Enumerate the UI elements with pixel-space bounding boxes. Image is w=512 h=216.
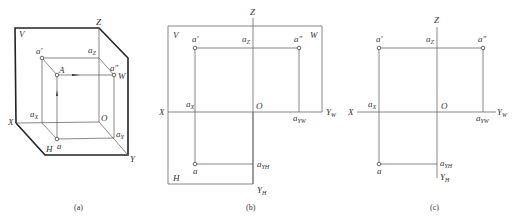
svg-text:W: W <box>310 30 319 40</box>
svg-text:a': a' <box>36 46 44 56</box>
projection-diagram: V Z W X Y H O A a' a" a aZ aX aY (a) V <box>0 0 512 216</box>
svg-text:aYH: aYH <box>440 158 453 169</box>
svg-text:aYH: aYH <box>257 159 270 170</box>
arrow-down-icon <box>56 90 58 96</box>
svg-text:H: H <box>45 144 53 154</box>
svg-text:YH: YH <box>440 172 450 183</box>
svg-text:X: X <box>158 107 165 117</box>
svg-text:X: X <box>347 107 354 117</box>
point-a-prime <box>40 56 44 60</box>
panel-b-h-frame <box>168 112 253 184</box>
svg-text:aYW: aYW <box>476 113 490 124</box>
panel-a-isometric: V Z W X Y H O A a' a" a aZ aX aY (a) <box>7 17 136 212</box>
svg-text:a": a" <box>110 63 119 73</box>
svg-text:V: V <box>173 30 180 40</box>
svg-text:YW: YW <box>497 107 508 118</box>
svg-text:O: O <box>441 101 448 111</box>
point-a-dprime <box>297 46 301 50</box>
svg-text:X: X <box>7 117 14 127</box>
arrow-left-icon <box>72 74 80 76</box>
point-a-dprime <box>112 73 116 77</box>
svg-text:YH: YH <box>257 185 267 196</box>
svg-text:a": a" <box>478 34 487 44</box>
caption-a: (a) <box>74 203 83 212</box>
svg-text:O: O <box>256 101 263 111</box>
panel-a-x-axis <box>16 122 99 123</box>
svg-text:V: V <box>19 29 26 39</box>
svg-text:A: A <box>58 65 65 75</box>
svg-text:O: O <box>101 113 108 123</box>
svg-text:aZ: aZ <box>242 34 251 45</box>
point-a-prime <box>377 46 381 50</box>
svg-text:Y: Y <box>130 154 136 164</box>
point-a-dprime <box>481 46 485 50</box>
point-a-prime <box>193 46 197 50</box>
svg-text:a: a <box>377 166 382 176</box>
svg-text:YW: YW <box>326 107 337 118</box>
svg-text:H: H <box>172 173 180 183</box>
svg-text:a': a' <box>192 34 200 44</box>
svg-text:Z: Z <box>434 15 440 25</box>
svg-text:Z: Z <box>96 17 102 27</box>
svg-text:a": a" <box>294 34 303 44</box>
svg-text:a': a' <box>376 34 384 44</box>
caption-c: (c) <box>430 203 439 212</box>
svg-text:Z: Z <box>250 7 256 17</box>
svg-text:aY: aY <box>116 129 125 140</box>
svg-text:aZ: aZ <box>426 34 435 45</box>
svg-text:a: a <box>193 166 198 176</box>
svg-text:W: W <box>118 71 127 81</box>
svg-text:aX: aX <box>30 109 39 120</box>
panel-c-three-view: Z X O YW YH a' a" a aZ aX aYW aYH (c) <box>347 15 508 212</box>
svg-text:a: a <box>57 141 62 151</box>
caption-b: (b) <box>246 203 256 212</box>
svg-text:aX: aX <box>186 99 195 110</box>
panel-b-unfolded-planes: V W H Z X O YW YH a' a" a aZ aX aYW aYH … <box>158 7 337 212</box>
svg-text:aX: aX <box>368 99 377 110</box>
svg-text:aYW: aYW <box>293 113 307 124</box>
svg-text:aZ: aZ <box>88 45 97 56</box>
